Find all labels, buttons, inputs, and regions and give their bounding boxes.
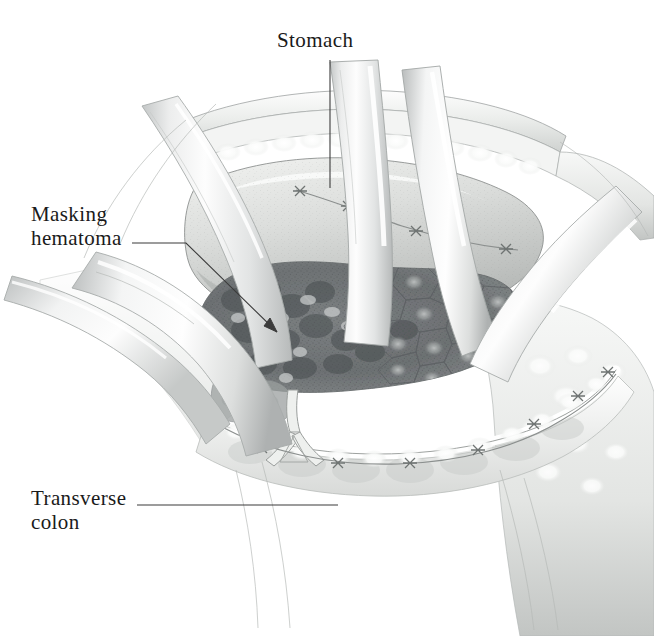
label-masking-hematoma: Masking hematoma <box>31 202 122 250</box>
medical-illustration-figure: Stomach Masking hematoma Transverse colo… <box>0 0 654 636</box>
label-stomach: Stomach <box>277 28 353 52</box>
illustration-artwork <box>0 0 654 636</box>
label-transverse-colon: Transverse colon <box>31 486 126 534</box>
